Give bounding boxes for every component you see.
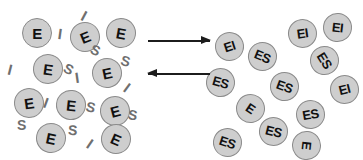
molecule-token-e: E [55, 89, 88, 122]
molecule-token-e: E [104, 16, 139, 51]
molecule-token-es: ES [305, 41, 345, 81]
molecule-token-es: ES [244, 38, 282, 76]
free-molecule-s: S [17, 118, 26, 132]
molecule-token-ei: EI [286, 17, 319, 50]
free-molecule-s: S [119, 53, 132, 69]
free-molecule-i: I [57, 26, 63, 41]
molecule-token-es: ES [203, 65, 239, 101]
molecule-token-ei: EI [327, 72, 362, 107]
molecule-token-e: E [33, 120, 69, 156]
molecule-token-e: E [96, 119, 136, 159]
enzyme-substrate-equilibrium-figure: EEEEEEEEEEIISSISIIISSSSI EIESEIEIESESESE… [0, 0, 363, 160]
molecule-token-es: ES [294, 98, 328, 132]
free-molecule-s: S [127, 107, 139, 122]
molecule-token-es: ES [256, 114, 291, 149]
free-molecule-i: I [84, 136, 96, 151]
molecule-token-e: E [12, 86, 46, 120]
free-molecule-s: S [84, 99, 96, 115]
molecule-token-es: ES [266, 68, 303, 105]
molecule-token-e: E [22, 18, 52, 48]
free-molecule-i: I [6, 62, 14, 78]
free-molecule-i: I [74, 70, 80, 85]
molecule-token-ei: EI [322, 12, 354, 44]
molecule-token-e: E [31, 52, 65, 86]
molecule-token-e: E [89, 55, 125, 91]
molecule-token-ei: EI [211, 28, 248, 65]
reverse-arrow-shaft [148, 73, 210, 75]
free-molecule-s: S [68, 123, 78, 138]
reverse-arrow-head-icon [147, 69, 157, 77]
free-molecule-i: I [121, 80, 133, 95]
molecule-token-e: E [291, 130, 323, 160]
molecule-token-es: ES [209, 124, 246, 160]
forward-arrow-head-icon [201, 36, 211, 44]
